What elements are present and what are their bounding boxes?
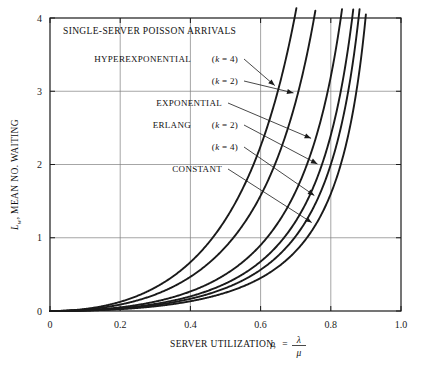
x-axis-label-equals: = <box>282 339 288 349</box>
annotation-label-3: ERLANG <box>153 120 191 130</box>
x-tick-label: 0.8 <box>325 319 338 330</box>
annotation-label-5: CONSTANT <box>172 164 222 174</box>
chart-title: SINGLE-SERVER POISSON ARRIVALS <box>63 26 236 36</box>
annotation-param-4: (k = 4) <box>212 142 238 152</box>
x-tick-label: 0 <box>48 319 53 330</box>
y-tick-label: 1 <box>37 232 42 243</box>
y-tick-label: 4 <box>37 13 42 24</box>
y-tick-label: 3 <box>37 86 42 97</box>
x-axis-label-rho: ρ <box>270 339 276 349</box>
annotation-label-0: HYPEREXPONENTIAL <box>94 54 191 64</box>
annotation-param-1: (k = 2) <box>212 76 238 86</box>
queueing-theory-chart: 00.20.40.60.81.0 01234 (k = 4)HYPEREXPON… <box>0 0 425 371</box>
y-tick-label: 2 <box>37 159 42 170</box>
x-axis-label-mu: μ <box>295 348 301 358</box>
annotation-param-3: (k = 2) <box>212 120 238 130</box>
x-tick-label: 0.2 <box>114 319 127 330</box>
annotation-label-2: EXPONENTIAL <box>156 98 222 108</box>
x-tick-label: 1.0 <box>395 319 408 330</box>
annotation-param-0: (k = 4) <box>212 54 238 64</box>
y-axis-label-caption: , MEAN NO. WAITING <box>10 119 20 219</box>
x-axis-label-lambda: λ <box>296 335 301 345</box>
x-tick-label: 0.6 <box>254 319 267 330</box>
x-tick-label: 0.4 <box>184 319 197 330</box>
y-tick-label: 0 <box>37 306 42 317</box>
chart-svg: 00.20.40.60.81.0 01234 (k = 4)HYPEREXPON… <box>0 0 425 371</box>
y-axis-label-symbol: L <box>10 224 20 231</box>
x-axis-label-prefix: SERVER UTILIZATION, <box>170 339 276 349</box>
